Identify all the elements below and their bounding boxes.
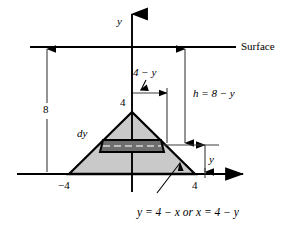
right-base-value-label: 4	[192, 180, 198, 191]
left-base-value-label: −4	[58, 180, 70, 191]
surface-label: Surface	[241, 41, 275, 52]
y-axis-label: y	[117, 16, 122, 27]
apex-value-label: 4	[120, 97, 126, 108]
half-width-label: 4 − y	[133, 67, 156, 78]
half-width-label-text: 4 − y	[133, 66, 156, 78]
boundary-equation-text: y = 4 − x or x = 4 − y	[137, 206, 239, 218]
figure-container: y Surface 8 4 −4 4 dy 4 − y h = 8 − y y …	[0, 0, 302, 227]
depth-expression-text: h = 8 − y	[193, 87, 235, 99]
boundary-equation-label: y = 4 − x or x = 4 − y	[137, 207, 239, 219]
total-depth-label: 8	[43, 104, 49, 115]
half-width-leader	[141, 80, 146, 90]
strip-thickness-label: dy	[77, 128, 87, 139]
strip-depth-label: y	[209, 154, 214, 165]
depth-expression-label: h = 8 − y	[193, 88, 235, 99]
